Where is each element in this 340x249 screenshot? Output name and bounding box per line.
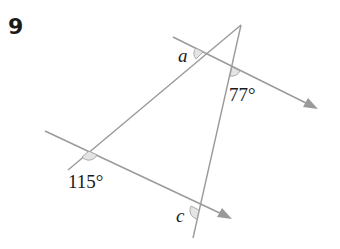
label-angle-115: 115° — [68, 171, 103, 192]
right-transversal — [193, 25, 241, 238]
angle-arc-77 — [230, 67, 240, 76]
label-angle-c: c — [176, 205, 185, 226]
label-angle-77: 77° — [229, 84, 256, 105]
geometry-diagram: a 77° 115° c — [0, 0, 340, 249]
arrow-head-icon — [217, 208, 232, 219]
angle-arc-c — [190, 206, 199, 219]
angle-arc-115 — [82, 151, 97, 160]
label-angle-a: a — [178, 45, 188, 66]
arrow-head-icon — [303, 98, 318, 109]
left-transversal — [68, 25, 241, 170]
